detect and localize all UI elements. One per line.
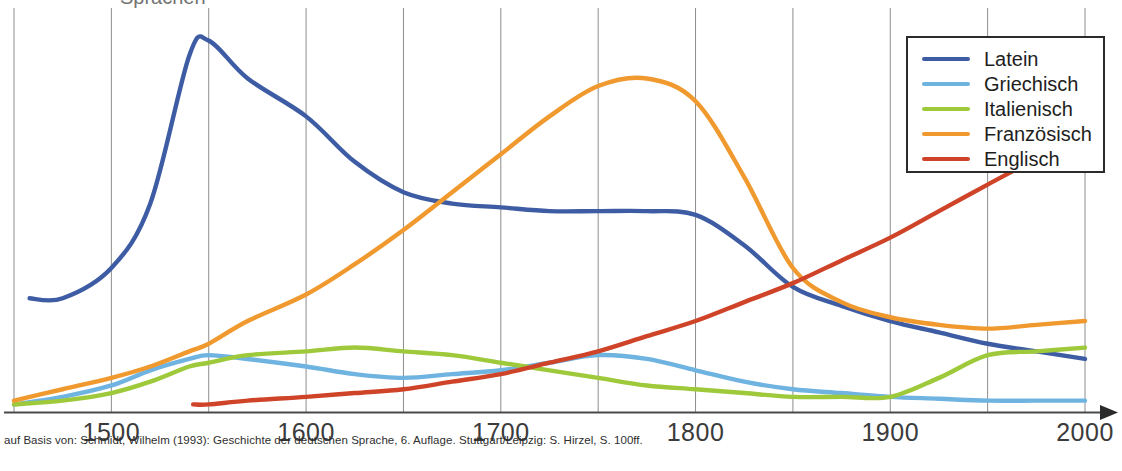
legend-swatch-englisch <box>922 157 970 161</box>
legend-swatch-italienisch <box>922 107 970 111</box>
legend-entry-list: LateinGriechischItalienischFranzösischEn… <box>908 38 1103 171</box>
x-axis-group <box>4 405 1118 420</box>
legend-entry-latein: Latein <box>908 47 1103 72</box>
x-tick-label-2000: 2000 <box>1056 418 1114 447</box>
legend-label: Latein <box>984 49 1039 69</box>
legend-swatch-latein <box>922 57 970 61</box>
legend-entry-französisch: Französisch <box>908 121 1103 146</box>
chart-figure: Sprachen 150016001700180019002000 Latein… <box>0 0 1122 471</box>
legend-swatch-griechisch <box>922 82 970 86</box>
legend-entry-englisch: Englisch <box>908 146 1103 171</box>
legend-label: Französisch <box>984 124 1092 144</box>
legend-swatch-französisch <box>922 132 970 136</box>
legend-label: Italienisch <box>984 99 1073 119</box>
legend-entry-griechisch: Griechisch <box>908 72 1103 97</box>
x-tick-label-1800: 1800 <box>667 418 725 447</box>
legend-label: Griechisch <box>984 74 1078 94</box>
legend-label: Englisch <box>984 149 1060 169</box>
chart-legend: LateinGriechischItalienischFranzösischEn… <box>906 36 1105 173</box>
figure-source-caption: auf Basis von: Schmidt, Wilhelm (1993): … <box>4 434 643 446</box>
x-tick-label-1900: 1900 <box>861 418 919 447</box>
legend-entry-italienisch: Italienisch <box>908 97 1103 122</box>
